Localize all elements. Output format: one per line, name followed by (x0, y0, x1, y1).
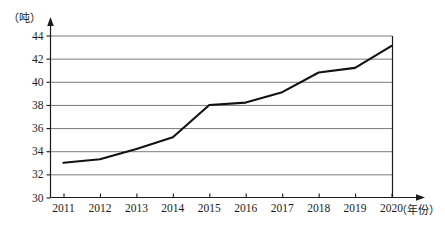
x-tick-label-2013: 2013 (125, 202, 148, 214)
chart-canvas: 3032343638404244 20112012201320142015201… (0, 0, 445, 229)
y-tick-label-44: 44 (32, 30, 44, 42)
y-tick-label-42: 42 (32, 53, 44, 65)
y-tick-label-40: 40 (32, 76, 44, 88)
y-tick-label-38: 38 (32, 99, 44, 111)
line-chart-figure: 3032343638404244 20112012201320142015201… (0, 0, 445, 229)
y-axis-unit-label: （吨） (8, 12, 41, 24)
chart-background (0, 0, 445, 229)
x-tick-label-2014: 2014 (161, 202, 184, 214)
x-tick-label-2019: 2019 (344, 202, 367, 214)
x-tick-label-2016: 2016 (234, 202, 257, 214)
x-tick-label-2018: 2018 (307, 202, 330, 214)
y-tick-label-30: 30 (32, 192, 44, 204)
y-tick-label-36: 36 (32, 122, 44, 134)
x-tick-label-2012: 2012 (88, 202, 111, 214)
y-tick-label-34: 34 (32, 145, 44, 157)
x-axis-unit-label: （年份） (396, 203, 440, 216)
x-tick-label-2015: 2015 (198, 202, 221, 214)
y-tick-label-32: 32 (32, 168, 44, 180)
x-tick-label-2017: 2017 (271, 202, 294, 214)
x-tick-label-2011: 2011 (52, 202, 75, 214)
